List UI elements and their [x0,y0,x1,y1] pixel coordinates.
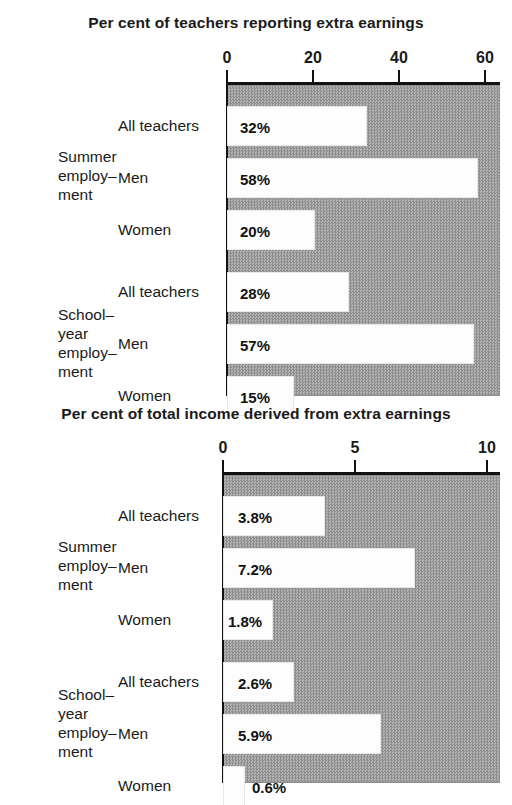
chart1-tick-60 [484,70,486,82]
chart2-tick-10 [486,460,488,472]
chart1-row-label-schoolyear-men: Men [118,336,148,352]
chart2-bar-schoolyear-women: 0.6% [224,767,244,805]
chart1-tick-40 [398,70,400,82]
chart2-row-label-schoolyear-women: Women [118,778,171,794]
chart2-row-label-summer-men: Men [118,560,148,576]
chart2-x-axis: 0 5 10 [222,435,500,475]
chart2-title: Per cent of total income derived from ex… [0,405,512,423]
chart2-bar-schoolyear-all-teachers: 2.6% [224,663,293,701]
chart2-row-label-schoolyear-men: Men [118,726,148,742]
chart1-bar-summer-women: 20% [228,211,314,249]
chart1-row-label-summer-all-teachers: All teachers [118,118,199,134]
chart2-bar-value-summer-women: 1.8% [228,614,262,629]
chart1-title: Per cent of teachers reporting extra ear… [0,14,512,32]
chart-income-derived-from-extra-earnings: Per cent of total income derived from ex… [0,400,512,795]
chart2-row-label-summer-women: Women [118,612,171,628]
chart2-row-label-schoolyear-all-teachers: All teachers [118,674,199,690]
chart-teachers-reporting-extra-earnings: Per cent of teachers reporting extra ear… [0,0,512,400]
chart1-bar-value-summer-men: 58% [240,172,270,187]
chart1-bar-value-schoolyear-all-teachers: 28% [240,286,270,301]
chart2-row-label-summer-all-teachers: All teachers [118,508,199,524]
chart2-group-label-summer: Summer employ– ment [58,538,117,595]
chart1-row-label-schoolyear-all-teachers: All teachers [118,284,199,300]
chart1-tick-label-0: 0 [223,49,232,67]
chart1-bar-schoolyear-all-teachers: 28% [228,273,348,311]
chart1-bar-schoolyear-men: 57% [228,325,473,363]
chart2-group-label-school-year: School– year employ– ment [58,686,117,762]
chart2-bar-value-summer-men: 7.2% [238,562,272,577]
chart1-bar-value-summer-women: 20% [240,224,270,239]
chart1-bar-summer-men: 58% [228,159,477,197]
chart2-tick-label-10: 10 [478,439,496,457]
chart2-bar-value-schoolyear-men: 5.9% [238,728,272,743]
chart2-bar-schoolyear-men: 5.9% [224,715,380,753]
chart1-tick-0 [226,70,228,82]
chart1-bar-value-schoolyear-men: 57% [240,338,270,353]
chart2-bar-value-summer-all-teachers: 3.8% [238,510,272,525]
chart2-bar-value-schoolyear-all-teachers: 2.6% [238,676,272,691]
chart1-group-label-summer: Summer employ– ment [58,148,117,205]
chart1-tick-label-40: 40 [390,49,408,67]
chart1-tick-20 [312,70,314,82]
chart1-x-axis: 0 20 40 60 [226,45,500,85]
chart1-plot-area: 32% 58% 20% 28% 57% 15% [226,85,500,396]
chart1-tick-label-20: 20 [304,49,322,67]
chart1-bar-summer-all-teachers: 32% [228,107,366,145]
chart1-group-label-school-year: School– year employ– ment [58,306,117,382]
chart2-tick-5 [354,460,356,472]
chart1-row-label-summer-men: Men [118,170,148,186]
chart1-tick-label-60: 60 [476,49,494,67]
chart2-tick-label-0: 0 [219,439,228,457]
chart1-row-label-summer-women: Women [118,222,171,238]
chart2-bar-summer-all-teachers: 3.8% [224,497,324,535]
chart2-bar-summer-women: 1.8% [224,601,272,639]
chart2-bar-value-schoolyear-women: 0.6% [252,780,286,795]
chart2-bar-summer-men: 7.2% [224,549,414,587]
chart1-bar-value-summer-all-teachers: 32% [240,120,270,135]
chart2-tick-label-5: 5 [351,439,360,457]
chart2-tick-0 [222,460,224,472]
chart2-plot-area: 3.8% 7.2% 1.8% 2.6% 5.9% 0.6% [222,475,500,783]
